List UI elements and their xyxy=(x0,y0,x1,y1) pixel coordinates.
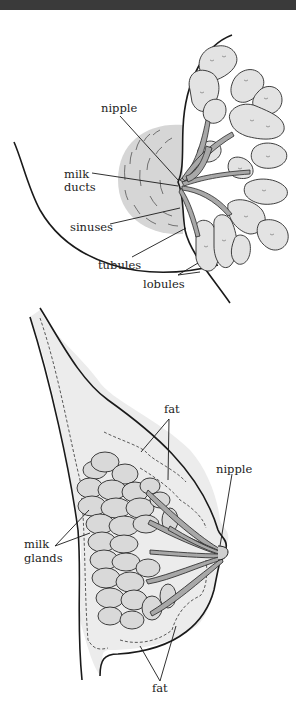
top-figure xyxy=(14,35,288,303)
label-nipple-bottom: nipple xyxy=(216,463,252,476)
label-milk-glands-line1: milk xyxy=(24,538,49,551)
label-milk-ducts-line2: ducts xyxy=(64,181,96,194)
label-milk-glands-line2: glands xyxy=(24,552,63,565)
bottom-figure xyxy=(30,308,232,681)
label-nipple-top: nipple xyxy=(101,102,137,115)
label-tubules: tubules xyxy=(98,259,141,272)
label-lobules: lobules xyxy=(143,278,185,291)
breast-anatomy-diagram xyxy=(0,0,296,718)
label-fat-bottom: fat xyxy=(152,682,168,695)
label-fat-top: fat xyxy=(164,403,180,416)
label-sinuses: sinuses xyxy=(70,221,113,234)
